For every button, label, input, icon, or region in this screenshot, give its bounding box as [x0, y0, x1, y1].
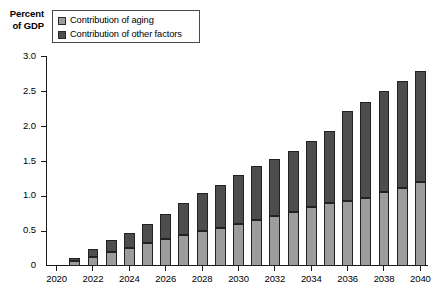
- x-axis-tick: [165, 266, 166, 271]
- bar-segment-aging: [288, 212, 299, 266]
- x-axis-tick-label: 2034: [291, 273, 331, 284]
- bar-2038: [379, 91, 390, 266]
- bar-segment-aging: [360, 198, 371, 266]
- bar-segment-aging: [251, 220, 262, 266]
- x-axis-tick: [347, 266, 348, 271]
- bar-segment-other-factors: [215, 185, 226, 228]
- x-axis-tick: [202, 266, 203, 271]
- legend-swatch-aging-icon: [58, 17, 66, 25]
- x-axis-tick-label: 2026: [146, 273, 186, 284]
- x-axis-tick-label: 2038: [364, 273, 404, 284]
- bar-segment-other-factors: [197, 193, 208, 231]
- x-axis-tick-label: 2024: [109, 273, 149, 284]
- bar-segment-other-factors: [233, 175, 244, 224]
- bar-segment-aging: [106, 252, 117, 266]
- y-axis-title-line-1: Percent: [2, 8, 44, 20]
- y-axis-tick-label: 2.0: [6, 121, 36, 131]
- bar-segment-aging: [160, 239, 171, 266]
- bar-segment-aging: [233, 224, 244, 266]
- bar-segment-aging: [415, 182, 426, 266]
- bar-segment-aging: [379, 192, 390, 266]
- bar-segment-other-factors: [69, 258, 80, 261]
- bar-2032: [269, 159, 280, 266]
- bar-segment-other-factors: [88, 249, 99, 257]
- legend-label-aging: Contribution of aging: [70, 15, 154, 26]
- y-axis-tick-label: 0: [6, 260, 36, 270]
- bar-segment-aging: [269, 216, 280, 266]
- x-axis-tick: [311, 266, 312, 271]
- bar-segment-other-factors: [142, 224, 153, 243]
- bar-segment-aging: [197, 231, 208, 266]
- bar-2024: [124, 233, 135, 266]
- bar-2025: [142, 224, 153, 266]
- bar-2030: [233, 175, 244, 266]
- bar-2034: [306, 141, 317, 266]
- bar-segment-other-factors: [288, 151, 299, 212]
- x-axis-tick-label: 2020: [37, 273, 77, 284]
- bar-segment-aging: [215, 228, 226, 266]
- plot-area: [46, 57, 428, 266]
- chart-legend: Contribution of aging Contribution of ot…: [52, 10, 200, 43]
- bar-2037: [360, 102, 371, 266]
- bar-segment-aging: [69, 261, 80, 266]
- y-axis-tick-label: 2.5: [6, 86, 36, 96]
- y-axis-tick-label: 3.0: [6, 51, 36, 61]
- bar-segment-other-factors: [106, 240, 117, 252]
- bar-2021: [69, 258, 80, 266]
- x-axis-tick-label: 2028: [182, 273, 222, 284]
- legend-item-other-factors: Contribution of other factors: [58, 28, 199, 41]
- y-axis-title-line-2: of GDP: [2, 20, 44, 32]
- bar-segment-aging: [342, 201, 353, 266]
- bar-segment-other-factors: [324, 131, 335, 203]
- bar-segment-aging: [306, 207, 317, 266]
- legend-swatch-other-factors-icon: [58, 31, 66, 39]
- bar-segment-other-factors: [360, 102, 371, 197]
- bar-2040: [415, 71, 426, 266]
- bar-2031: [251, 166, 262, 266]
- x-axis-tick: [56, 266, 57, 271]
- x-axis-tick: [274, 266, 275, 271]
- x-axis-tick: [238, 266, 239, 271]
- legend-item-aging: Contribution of aging: [58, 14, 199, 27]
- x-axis-tick-label: 2030: [219, 273, 259, 284]
- bar-segment-other-factors: [251, 166, 262, 220]
- bar-segment-aging: [397, 188, 408, 266]
- legend-label-other-factors: Contribution of other factors: [70, 29, 182, 40]
- bar-segment-other-factors: [342, 111, 353, 201]
- bar-segment-aging: [324, 203, 335, 266]
- x-axis-tick-label: 2040: [400, 273, 435, 284]
- bar-segment-aging: [178, 235, 189, 266]
- x-axis-tick-label: 2032: [255, 273, 295, 284]
- bar-2026: [160, 214, 171, 266]
- x-axis-tick-label: 2022: [73, 273, 113, 284]
- y-axis-tick-label: 0.5: [6, 225, 36, 235]
- bar-segment-other-factors: [415, 71, 426, 182]
- x-axis-tick: [129, 266, 130, 271]
- bar-2035: [324, 131, 335, 266]
- bar-2023: [106, 240, 117, 266]
- bar-2022: [88, 249, 99, 266]
- bar-2036: [342, 111, 353, 266]
- x-axis-tick: [92, 266, 93, 271]
- bar-segment-aging: [142, 243, 153, 266]
- y-axis-tick-label: 1.0: [6, 190, 36, 200]
- y-axis-tick-label: 1.5: [6, 156, 36, 166]
- x-axis-tick: [420, 266, 421, 271]
- bar-segment-other-factors: [306, 141, 317, 207]
- x-axis-tick-label: 2036: [328, 273, 368, 284]
- bar-2028: [197, 193, 208, 266]
- bar-2033: [288, 151, 299, 266]
- bar-segment-aging: [124, 248, 135, 266]
- bar-segment-other-factors: [124, 233, 135, 248]
- y-axis-title: Percent of GDP: [2, 8, 44, 31]
- bar-segment-other-factors: [397, 81, 408, 188]
- x-axis-tick: [383, 266, 384, 271]
- bar-segment-other-factors: [269, 159, 280, 216]
- bar-2029: [215, 185, 226, 267]
- bar-segment-aging: [88, 257, 99, 266]
- bar-segment-other-factors: [160, 214, 171, 238]
- bar-2039: [397, 81, 408, 266]
- bar-segment-other-factors: [178, 203, 189, 234]
- bar-2027: [178, 203, 189, 266]
